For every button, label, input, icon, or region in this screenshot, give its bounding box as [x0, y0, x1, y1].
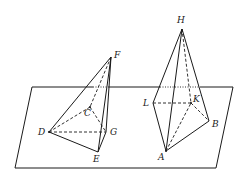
vertex-K-dot	[190, 102, 192, 104]
edge-DE	[49, 132, 98, 152]
label-C: C	[84, 109, 91, 118]
edge-FE	[98, 57, 111, 152]
edge-HK-hidden	[182, 29, 191, 103]
label-G: G	[110, 128, 117, 137]
label-K: K	[193, 95, 200, 104]
diagram-canvas: F C D G E H L K B A	[0, 0, 249, 187]
label-B: B	[212, 120, 219, 129]
label-H: H	[177, 16, 185, 25]
edge-FD	[49, 57, 111, 132]
geometry-figure	[0, 0, 249, 187]
label-A: A	[158, 153, 165, 162]
vertex-D-dot	[48, 131, 50, 133]
label-F: F	[114, 51, 120, 60]
vertex-A-dot	[165, 150, 167, 152]
edge-LA	[153, 103, 166, 151]
plane-edge-left	[15, 87, 32, 168]
label-L: L	[143, 99, 149, 108]
label-E: E	[93, 155, 100, 164]
pyramid-fdeg	[49, 57, 111, 152]
edge-AK-hidden	[166, 103, 191, 151]
label-D: D	[38, 128, 45, 137]
edge-HA	[166, 29, 182, 151]
edge-AB	[166, 121, 209, 151]
vertex-dots	[48, 102, 192, 152]
pyramid-hlab	[153, 29, 209, 151]
